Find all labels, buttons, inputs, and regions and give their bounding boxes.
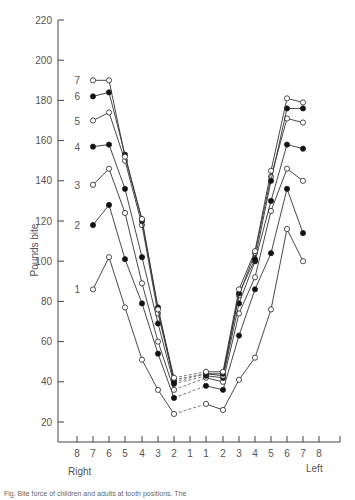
data-point [155, 339, 160, 344]
data-point [90, 118, 95, 123]
data-point [106, 202, 111, 207]
series-label: 7 [74, 75, 80, 86]
data-point [300, 146, 305, 151]
y-tick-label: 140 [35, 175, 52, 186]
data-point [106, 110, 111, 115]
data-point [284, 166, 289, 171]
data-point [268, 307, 273, 312]
data-point [252, 287, 257, 292]
x-tick-label: 2 [171, 448, 177, 459]
data-point [252, 249, 257, 254]
y-axis-label: Pounds bite [29, 223, 40, 276]
data-point [90, 78, 95, 83]
y-tick-label: 40 [41, 376, 53, 387]
data-point [300, 178, 305, 183]
data-point [171, 375, 176, 380]
data-point [203, 401, 208, 406]
y-tick-label: 180 [35, 95, 52, 106]
data-point [122, 257, 127, 262]
data-point [300, 230, 305, 235]
series-label: 6 [74, 91, 80, 102]
x-tick-label: 4 [139, 448, 145, 459]
y-tick-label: 60 [41, 336, 53, 347]
data-point [139, 357, 144, 362]
axes: 2040608010012014016018020022087654321123… [35, 15, 340, 460]
data-point [268, 168, 273, 173]
data-point [171, 411, 176, 416]
data-point [139, 216, 144, 221]
data-point [122, 186, 127, 191]
data-point [252, 275, 257, 280]
data-point [155, 351, 160, 356]
data-point [106, 255, 111, 260]
data-point [252, 355, 257, 360]
y-tick-label: 220 [35, 15, 52, 26]
y-tick-label: 20 [41, 417, 53, 428]
data-point [171, 387, 176, 392]
data-point [139, 281, 144, 286]
x-tick-label: 8 [74, 448, 80, 459]
data-point [122, 154, 127, 159]
data-point [139, 255, 144, 260]
y-tick-label: 80 [41, 296, 53, 307]
data-point [284, 226, 289, 231]
data-point [284, 142, 289, 147]
data-point [252, 257, 257, 262]
data-point [268, 251, 273, 256]
series-label: 2 [74, 220, 80, 231]
data-point [300, 120, 305, 125]
figure-caption: Fig. Bite force of children and adults a… [4, 490, 186, 497]
data-point [236, 287, 241, 292]
x-tick-label: 7 [300, 448, 306, 459]
series-label: 1 [74, 284, 80, 295]
data-point [90, 222, 95, 227]
data-point [300, 100, 305, 105]
x-tick-label: 3 [155, 448, 161, 459]
data-point [139, 301, 144, 306]
data-point [90, 144, 95, 149]
series-label: 3 [74, 180, 80, 191]
x-tick-label: 8 [316, 448, 322, 459]
left-side-label: Left [306, 463, 323, 474]
x-tick-label: 4 [252, 448, 258, 459]
data-point [268, 198, 273, 203]
data-point [106, 142, 111, 147]
data-point [284, 96, 289, 101]
data-point [220, 407, 225, 412]
x-tick-label: 5 [268, 448, 274, 459]
right-side-label: Right [68, 466, 92, 477]
x-tick-label: 6 [106, 448, 112, 459]
bite-force-chart: 2040608010012014016018020022087654321123… [0, 0, 355, 490]
series-label: 5 [74, 116, 80, 127]
y-tick-label: 160 [35, 135, 52, 146]
x-tick-label: 6 [284, 448, 290, 459]
y-tick-label: 200 [35, 55, 52, 66]
x-tick-label: 1 [203, 448, 209, 459]
data-point [90, 287, 95, 292]
data-point [203, 383, 208, 388]
data-point [171, 395, 176, 400]
x-tick-label: 5 [122, 448, 128, 459]
data-point [236, 377, 241, 382]
x-tick-label: 7 [90, 448, 96, 459]
x-tick-label: 1 [187, 448, 193, 459]
data-point [106, 78, 111, 83]
data-point [300, 106, 305, 111]
x-tick-label: 2 [220, 448, 226, 459]
data-point [90, 94, 95, 99]
data-point [155, 387, 160, 392]
x-tick-label: 3 [236, 448, 242, 459]
data-point [155, 307, 160, 312]
data-series [90, 78, 305, 417]
data-point [90, 182, 95, 187]
series-label: 4 [74, 142, 80, 153]
data-point [284, 186, 289, 191]
data-point [220, 387, 225, 392]
data-point [220, 369, 225, 374]
data-point [300, 259, 305, 264]
data-point [106, 166, 111, 171]
data-point [122, 305, 127, 310]
data-point [236, 333, 241, 338]
data-point [122, 210, 127, 215]
data-point [203, 369, 208, 374]
